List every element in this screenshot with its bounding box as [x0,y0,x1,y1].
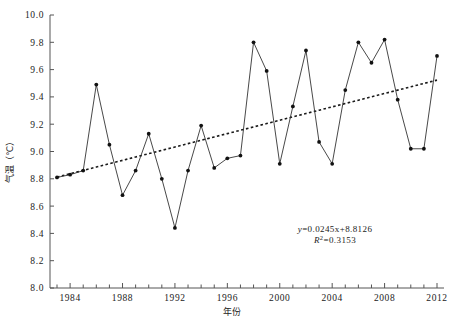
y-tick-label: 9.6 [30,65,44,75]
data-point-marker [409,147,413,151]
r-squared-value: R2=0.3153 [313,234,356,245]
x-axis-tick-labels: 19841988199219962000200420082012 [59,293,447,303]
x-axis-title: 年份 [223,306,241,317]
data-point-marker [147,132,151,136]
y-tick-label: 9.2 [30,120,44,130]
x-tick-label: 1996 [217,293,238,303]
data-point-marker [396,98,400,102]
x-tick-label: 2012 [426,293,447,303]
data-point-marker [383,38,387,42]
data-point-marker [370,61,374,65]
y-tick-label: 10.0 [25,10,44,20]
data-point-marker [81,169,85,173]
data-point-marker [317,140,321,144]
data-point-marker [134,169,138,173]
data-point-marker [55,176,59,180]
regression-annotation: y=0.0245x+8.8126 R2=0.3153 [297,224,373,245]
data-point-marker [68,173,72,177]
temperature-series-line [57,40,437,228]
x-tick-label: 1988 [112,293,133,303]
data-point-marker [239,154,243,158]
x-tick-label: 1984 [59,293,80,303]
data-point-marker [422,147,426,151]
x-tick-label: 2008 [374,293,395,303]
y-tick-label: 9.8 [30,38,44,48]
y-tick-label: 8.8 [30,174,44,184]
x-axis-ticks [57,283,437,288]
data-point-marker [173,226,177,230]
equation-body: =0.0245x+8.8126 [302,224,372,234]
x-tick-label: 1992 [164,293,185,303]
y-tick-label: 8.4 [30,229,44,239]
data-point-marker [291,105,295,109]
data-point-marker [435,54,439,58]
data-point-marker [121,193,125,197]
y-tick-label: 8.6 [30,202,44,212]
data-point-marker [186,169,190,173]
y-axis-ticks [50,15,54,288]
data-point-marker [212,166,216,170]
data-point-marker [356,40,360,44]
temperature-series-markers [55,38,439,230]
y-tick-label: 8.0 [30,283,44,293]
data-point-marker [108,143,112,147]
data-point-marker [304,49,308,53]
y-axis-title: 气温（℃） [4,137,15,183]
data-point-marker [330,162,334,166]
axes-group [50,15,444,288]
data-point-marker [225,156,229,160]
chart-canvas: 10.09.89.69.49.29.08.88.68.48.28.0 19841… [0,0,459,327]
data-point-marker [160,177,164,181]
x-tick-label: 2000 [269,293,290,303]
regression-equation: y=0.0245x+8.8126 [297,224,373,234]
y-axis-tick-labels: 10.09.89.69.49.29.08.88.68.48.28.0 [25,10,44,293]
data-point-marker [265,69,269,73]
x-tick-label: 2004 [321,293,342,303]
r-squared-body: =0.3153 [323,235,356,245]
data-point-marker [199,124,203,128]
y-tick-label: 8.2 [30,256,44,266]
data-point-marker [343,88,347,92]
data-point-marker [278,162,282,166]
y-tick-label: 9.4 [30,92,44,102]
temperature-trend-chart: 10.09.89.69.49.29.08.88.68.48.28.0 19841… [0,0,459,327]
data-point-marker [94,83,98,87]
y-tick-label: 9.0 [30,147,44,157]
data-point-marker [252,40,256,44]
